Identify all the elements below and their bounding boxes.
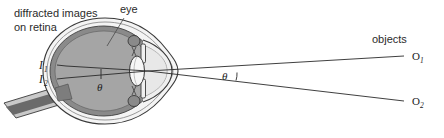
diffracted-images-label-line2: on retina <box>14 21 58 33</box>
eye-diffraction-figure: diffracted images on retina eye objects … <box>0 0 444 138</box>
outer-angle-arc <box>236 73 237 81</box>
ciliary-body-lower <box>128 96 140 107</box>
image-1-subscript: 1 <box>44 65 48 74</box>
inner-theta-label: θ <box>97 81 103 93</box>
object-2-label: O <box>412 95 420 107</box>
object-1-label: O <box>412 50 420 62</box>
ray-o2-incoming <box>148 71 404 101</box>
eye-label: eye <box>120 3 138 15</box>
image-2-subscript: 2 <box>44 79 48 88</box>
outer-theta-label: θ <box>222 70 228 82</box>
ray-o1-incoming <box>148 56 404 71</box>
ciliary-body-upper <box>128 36 140 47</box>
object-1-subscript: 1 <box>420 56 424 65</box>
figure-canvas: diffracted images on retina eye objects … <box>0 0 444 138</box>
objects-label: objects <box>372 33 407 45</box>
object-2-subscript: 2 <box>420 101 424 110</box>
diffracted-images-label-line1: diffracted images <box>14 7 98 19</box>
